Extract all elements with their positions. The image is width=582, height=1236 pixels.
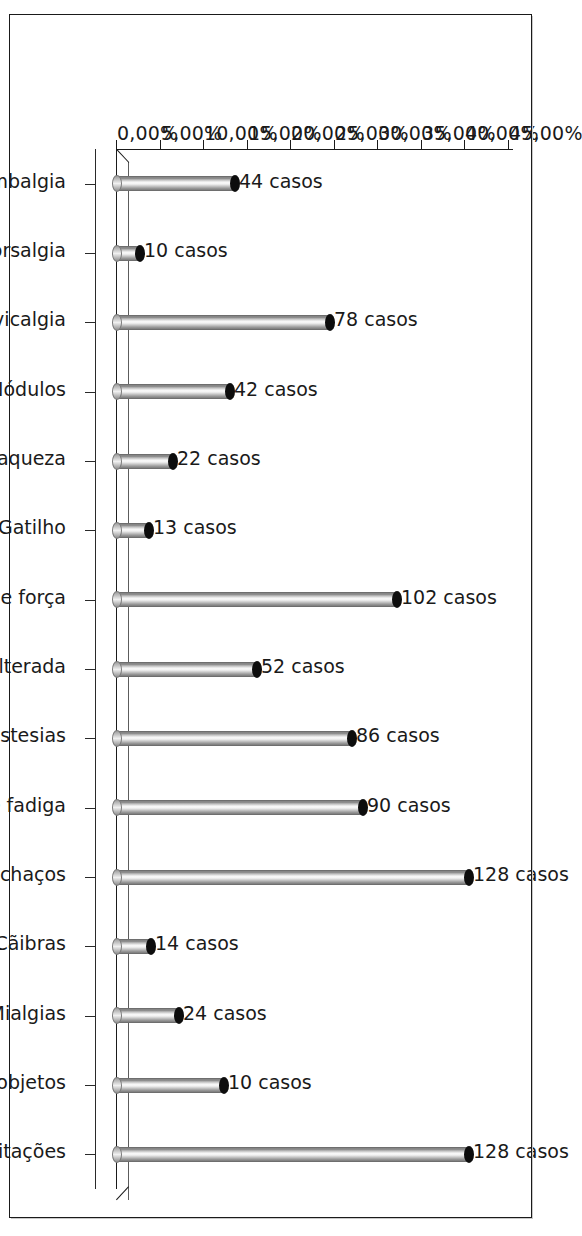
category-label: Limitações xyxy=(0,1140,66,1162)
category-axis-tick xyxy=(85,1085,96,1086)
bar-value-label: 10 casos xyxy=(227,1071,311,1093)
category-label: Fraqueza xyxy=(0,447,66,469)
value-axis-line xyxy=(117,149,513,150)
bar xyxy=(117,592,402,607)
bar-base-ellipse xyxy=(112,591,122,608)
chart-frame: 0,00%5,00%10,00%15,00%20,00%25,00%30,00%… xyxy=(9,14,532,1218)
bar xyxy=(117,454,178,469)
bar-base-ellipse xyxy=(112,730,122,747)
bar-body xyxy=(117,592,397,607)
bar xyxy=(117,1008,184,1023)
bar-base-ellipse xyxy=(112,314,122,331)
bar-body xyxy=(117,454,173,469)
category-axis-tick xyxy=(85,600,96,601)
category-label: Cãibras xyxy=(0,932,66,954)
bar-value-label: 10 casos xyxy=(143,239,227,261)
bar-value-label: 78 casos xyxy=(333,308,417,330)
bar-body xyxy=(117,870,469,885)
category-axis-tick xyxy=(85,184,96,185)
category-axis-tick xyxy=(85,1154,96,1155)
category-axis-tick xyxy=(85,946,96,947)
category-label: Cervicalgia xyxy=(0,308,66,330)
bar-body xyxy=(117,800,363,815)
bar-top-ellipse xyxy=(229,175,239,192)
bar xyxy=(117,1147,474,1162)
bar-top-ellipse xyxy=(134,245,144,262)
bar-value-label: 13 casos xyxy=(152,516,236,538)
category-label: Inchaços xyxy=(0,863,66,885)
category-label: Nódulos xyxy=(0,378,66,400)
bar xyxy=(117,1078,229,1093)
bar-base-ellipse xyxy=(112,522,122,539)
category-axis-tick xyxy=(85,738,96,739)
bar-body xyxy=(117,315,330,330)
bar-top-ellipse xyxy=(167,453,177,470)
bar-base-ellipse xyxy=(112,661,122,678)
category-axis-tick xyxy=(85,669,96,670)
bar xyxy=(117,870,474,885)
category-label: Perda de força xyxy=(0,586,66,608)
category-label: Caligrafia alterada xyxy=(0,655,66,677)
bar-value-label: 90 casos xyxy=(366,794,450,816)
bar-body xyxy=(117,1147,469,1162)
bar xyxy=(117,176,240,191)
bar-value-label: 24 casos xyxy=(183,1002,267,1024)
bar-value-label: 102 casos xyxy=(400,586,496,608)
bar-base-ellipse xyxy=(112,938,122,955)
category-axis-tick xyxy=(85,461,96,462)
bar-value-label: 42 casos xyxy=(233,378,317,400)
bar-body xyxy=(117,731,352,746)
bar-body xyxy=(117,1078,224,1093)
bar-value-label: 52 casos xyxy=(261,655,345,677)
rotated-chart-stage: 0,00%5,00%10,00%15,00%20,00%25,00%30,00%… xyxy=(21,21,521,1211)
floor-right-edge xyxy=(116,1187,129,1203)
bar-body xyxy=(117,176,235,191)
bar xyxy=(117,523,154,538)
bar xyxy=(117,800,368,815)
category-axis-tick xyxy=(85,322,96,323)
category-label: Queda de objetos xyxy=(0,1071,66,1093)
plot-area: 0,00%5,00%10,00%15,00%20,00%25,00%30,00%… xyxy=(21,21,521,1211)
bar-value-label: 14 casos xyxy=(155,932,239,954)
category-axis-tick xyxy=(85,877,96,878)
bar-top-ellipse xyxy=(391,591,401,608)
bar-top-ellipse xyxy=(324,314,334,331)
bar-base-ellipse xyxy=(112,245,122,262)
bar-base-ellipse xyxy=(112,175,122,192)
bar xyxy=(117,731,357,746)
category-label: Peso, cansaço e fadiga xyxy=(0,794,66,816)
bar-top-ellipse xyxy=(357,799,367,816)
bar-base-ellipse xyxy=(112,799,122,816)
category-axis-tick xyxy=(85,392,96,393)
bar xyxy=(117,246,145,261)
category-label: Queimações, formigamentos, dormências ou… xyxy=(0,724,66,746)
bar xyxy=(117,384,235,399)
category-label: Mialgias xyxy=(0,1002,66,1024)
bar-body xyxy=(117,1008,179,1023)
bar-top-ellipse xyxy=(218,1077,228,1094)
category-label: Gatilho xyxy=(0,516,66,538)
bar xyxy=(117,315,335,330)
bar-base-ellipse xyxy=(112,1077,122,1094)
bar-base-ellipse xyxy=(112,383,122,400)
category-label: Lombalgia xyxy=(0,170,66,192)
bar-top-ellipse xyxy=(143,522,153,539)
bar-value-label: 44 casos xyxy=(238,170,322,192)
bar-body xyxy=(117,384,230,399)
bar-value-label: 22 casos xyxy=(176,447,260,469)
category-label: Dorsalgia xyxy=(0,239,66,261)
floor-left-edge xyxy=(116,149,129,163)
bar-value-label: 86 casos xyxy=(356,724,440,746)
bar xyxy=(117,662,262,677)
bar-base-ellipse xyxy=(112,453,122,470)
bar-base-ellipse xyxy=(112,1146,122,1163)
bar-base-ellipse xyxy=(112,869,122,886)
bar-body xyxy=(117,662,257,677)
category-axis-tick xyxy=(85,808,96,809)
bar xyxy=(117,939,156,954)
bar-value-label: 128 casos xyxy=(473,863,569,885)
bar-base-ellipse xyxy=(112,1007,122,1024)
bar-value-label: 128 casos xyxy=(473,1140,569,1162)
category-axis-tick xyxy=(85,530,96,531)
bar-top-ellipse xyxy=(224,383,234,400)
